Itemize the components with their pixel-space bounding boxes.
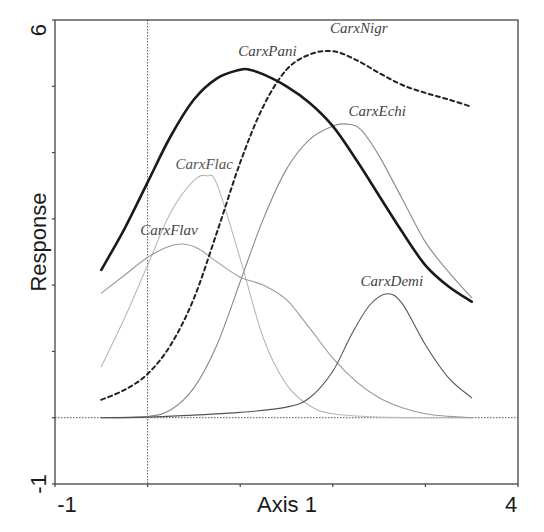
label-carxflac: CarxFlac [175, 156, 233, 172]
x-max-tick-label: 4 [505, 492, 517, 517]
reference-lines [55, 20, 518, 484]
y-max-tick-label: 6 [26, 24, 51, 36]
curve-carxechi [101, 124, 471, 418]
label-carxflav: CarxFlav [140, 222, 198, 238]
response-curves-chart: CarxPaniCarxNigrCarxEchiCarxFlacCarxFlav… [0, 0, 544, 532]
curve-carxdemi [101, 294, 471, 418]
x-axis-label: Axis 1 [257, 492, 317, 517]
curve-carxflac [101, 175, 471, 418]
x-min-tick-label: -1 [57, 492, 77, 517]
label-carxnigr: CarxNigr [330, 20, 388, 36]
curve-labels: CarxPaniCarxNigrCarxEchiCarxFlacCarxFlav… [140, 20, 423, 289]
y-min-tick-label: -1 [26, 474, 51, 494]
label-carxechi: CarxEchi [349, 103, 407, 119]
curve-carxpani [101, 69, 471, 302]
curve-carxflav [101, 244, 471, 418]
label-carxpani: CarxPani [238, 43, 296, 59]
label-carxdemi: CarxDemi [361, 273, 424, 289]
y-axis-label: Response [26, 192, 51, 291]
plot-frame [55, 20, 518, 484]
